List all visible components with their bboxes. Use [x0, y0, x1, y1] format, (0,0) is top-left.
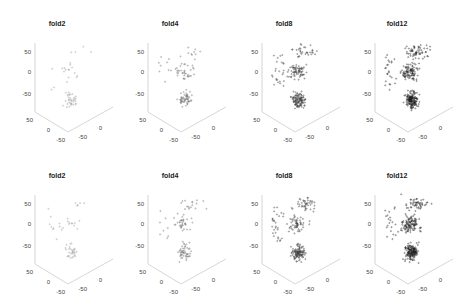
- z-tick-label: -50: [22, 91, 31, 97]
- z-tick-label: 50: [24, 49, 31, 55]
- x-tick-label: -50: [78, 134, 87, 140]
- z-tick-label: -50: [135, 243, 144, 249]
- scatter-plot-area: 500-50500-50-50050: [113, 152, 227, 302]
- y-tick-label: 50: [253, 269, 260, 275]
- x-tick-label: 0: [99, 277, 103, 283]
- x-tick-label: -50: [191, 286, 200, 292]
- z-tick-label: 0: [28, 221, 32, 227]
- z-tick-label: 50: [137, 201, 144, 207]
- x-tick-label: -50: [191, 134, 200, 140]
- z-tick-label: 50: [24, 201, 31, 207]
- scatter3d-panel-fold12: fold12500-50500-50-50050: [340, 152, 454, 302]
- z-tick-label: 50: [364, 201, 371, 207]
- z-tick-label: -50: [22, 243, 31, 249]
- scatter-plot-area: 500-50500-50-50050: [340, 0, 454, 150]
- y-tick-label: -50: [169, 137, 178, 143]
- x-tick-label: 0: [326, 277, 330, 283]
- scatter3d-panel-fold12: fold12500-50500-50-50050: [340, 0, 454, 150]
- z-tick-label: -50: [135, 91, 144, 97]
- x-tick-label: 0: [212, 277, 216, 283]
- x-tick-label: 0: [99, 125, 103, 131]
- z-tick-label: 0: [368, 221, 372, 227]
- x-tick-label: -50: [305, 134, 314, 140]
- y-tick-label: 0: [274, 127, 278, 133]
- z-tick-label: -50: [249, 91, 258, 97]
- y-tick-label: -50: [56, 137, 65, 143]
- scatter-plot-area: 500-50500-50-50050: [0, 0, 114, 150]
- y-tick-label: 50: [26, 117, 33, 123]
- y-tick-label: 0: [274, 279, 278, 285]
- z-tick-label: 50: [251, 49, 258, 55]
- scatter-plot-area: 500-50500-50-50050: [0, 152, 114, 302]
- z-tick-label: -50: [362, 91, 371, 97]
- y-tick-label: 0: [387, 279, 391, 285]
- y-tick-label: 0: [160, 127, 164, 133]
- x-tick-label: -50: [418, 286, 427, 292]
- z-tick-label: 0: [141, 69, 145, 75]
- y-tick-label: -50: [283, 289, 292, 295]
- x-tick-label: -50: [78, 286, 87, 292]
- z-tick-label: 0: [255, 69, 259, 75]
- y-tick-label: 50: [366, 269, 373, 275]
- z-tick-label: 50: [251, 201, 258, 207]
- z-tick-label: -50: [362, 243, 371, 249]
- z-tick-label: 0: [368, 69, 372, 75]
- y-tick-label: 50: [253, 117, 260, 123]
- y-tick-label: 0: [47, 127, 51, 133]
- scatter3d-panel-fold2: fold2500-50500-50-50050: [0, 152, 114, 302]
- scatter-plot-area: 500-50500-50-50050: [113, 0, 227, 150]
- y-tick-label: 50: [139, 269, 146, 275]
- y-tick-label: 0: [160, 279, 164, 285]
- x-tick-label: 0: [439, 125, 443, 131]
- x-tick-label: 0: [326, 125, 330, 131]
- y-tick-label: 50: [366, 117, 373, 123]
- y-tick-label: -50: [396, 289, 405, 295]
- y-tick-label: 0: [47, 279, 51, 285]
- scatter3d-panel-fold8: fold8500-50500-50-50050: [227, 0, 341, 150]
- x-tick-label: 0: [439, 277, 443, 283]
- y-tick-label: -50: [283, 137, 292, 143]
- z-tick-label: 50: [364, 49, 371, 55]
- y-tick-label: 0: [387, 127, 391, 133]
- z-tick-label: 0: [255, 221, 259, 227]
- scatter-plot-area: 500-50500-50-50050: [227, 0, 341, 150]
- scatter3d-panel-fold4: fold4500-50500-50-50050: [113, 0, 227, 150]
- y-tick-label: 50: [139, 117, 146, 123]
- scatter-plot-area: 500-50500-50-50050: [227, 152, 341, 302]
- y-tick-label: -50: [396, 137, 405, 143]
- y-tick-label: 50: [26, 269, 33, 275]
- scatter3d-panel-fold8: fold8500-50500-50-50050: [227, 152, 341, 302]
- x-tick-label: 0: [212, 125, 216, 131]
- y-tick-label: -50: [169, 289, 178, 295]
- z-tick-label: 0: [28, 69, 32, 75]
- scatter-plot-area: 500-50500-50-50050: [340, 152, 454, 302]
- z-tick-label: 50: [137, 49, 144, 55]
- x-tick-label: -50: [305, 286, 314, 292]
- x-tick-label: -50: [418, 134, 427, 140]
- scatter3d-panel-fold2: fold2500-50500-50-50050: [0, 0, 114, 150]
- z-tick-label: 0: [141, 221, 145, 227]
- scatter3d-panel-fold4: fold4500-50500-50-50050: [113, 152, 227, 302]
- y-tick-label: -50: [56, 289, 65, 295]
- z-tick-label: -50: [249, 243, 258, 249]
